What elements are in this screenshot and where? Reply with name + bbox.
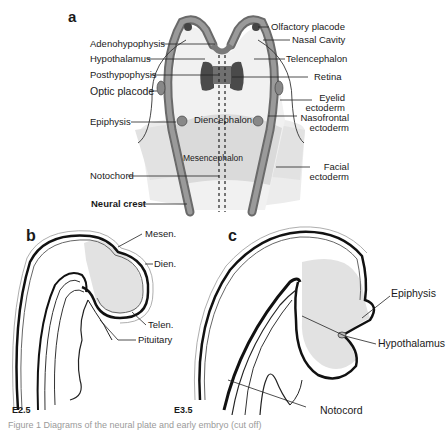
figure-caption: Figure 1 Diagrams of the neural plate an… (8, 420, 261, 430)
stage-label-e3-5: E3.5 (174, 405, 193, 415)
label-epiphysis-c: Epiphysis (391, 288, 436, 298)
label-notocord: Notocord (320, 405, 363, 415)
label-hypothalamus-c: Hypothalamus (378, 338, 445, 348)
